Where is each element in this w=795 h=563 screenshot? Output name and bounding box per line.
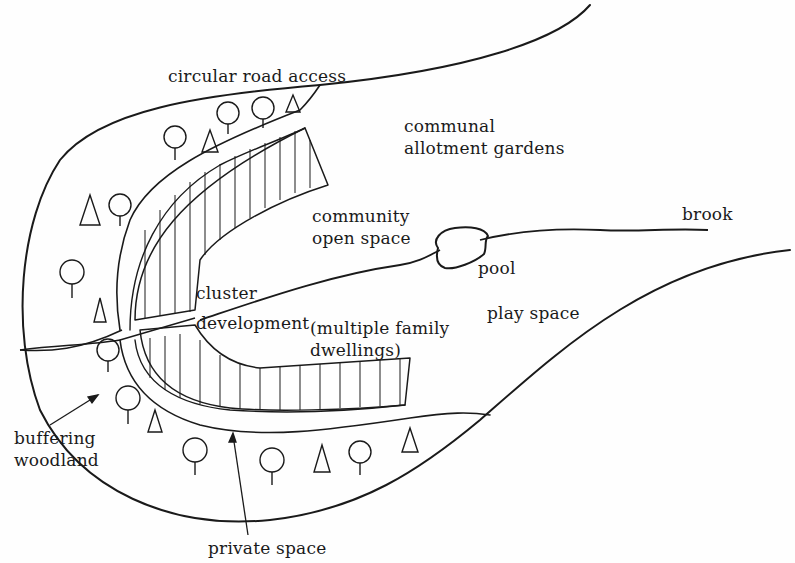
private-space-arrow [233,435,248,535]
label-dwellings: dwellings) [310,340,401,360]
label-buffering: buffering [14,428,96,448]
label-multiple-family: (multiple family [310,318,449,338]
diagram-linework [0,0,795,563]
label-pool: pool [478,258,516,278]
site-plan-diagram: circular road access communal allotment … [0,0,795,563]
access-road [20,318,195,351]
label-play-space: play space [487,303,580,323]
label-cluster: cluster [196,283,257,303]
label-community: community [312,206,410,226]
brook-line [200,229,708,320]
label-communal: communal [404,116,495,136]
label-allotment-gardens: allotment gardens [404,138,565,158]
label-development: development [196,313,309,333]
woodland-inner-bottom [120,340,490,433]
label-private-space: private space [208,538,326,558]
label-woodland: woodland [14,450,99,470]
label-brook: brook [682,204,733,224]
label-open-space: open space [312,228,411,248]
label-circular-road-access: circular road access [168,66,346,86]
cluster-hatching [145,131,400,410]
